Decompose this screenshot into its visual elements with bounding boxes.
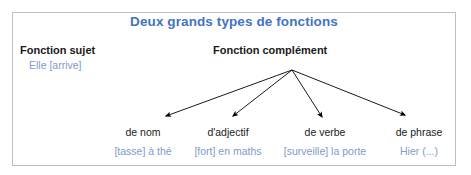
branch-label-de-phrase: de phrase bbox=[396, 126, 443, 138]
branch-example-de-verbe: [surveille] la porte bbox=[284, 145, 366, 157]
branch-label-d-adjectif: d'adjectif bbox=[207, 126, 248, 138]
branch-example-de-phrase: Hier (...) bbox=[400, 145, 438, 157]
figure-frame bbox=[12, 12, 456, 166]
subject-function-example: Elle [arrive] bbox=[29, 59, 82, 71]
branch-label-de-nom: de nom bbox=[125, 126, 160, 138]
subject-function-label: Fonction sujet bbox=[20, 44, 95, 56]
diagram-figure: Deux grands types de fonctions Fonction … bbox=[0, 0, 471, 175]
complement-function-label: Fonction complément bbox=[213, 44, 327, 56]
branch-example-d-adjectif: [fort] en maths bbox=[194, 145, 261, 157]
branch-label-de-verbe: de verbe bbox=[305, 126, 346, 138]
branch-example-de-nom: [tasse] à thé bbox=[114, 145, 171, 157]
figure-title: Deux grands types de fonctions bbox=[12, 14, 456, 29]
